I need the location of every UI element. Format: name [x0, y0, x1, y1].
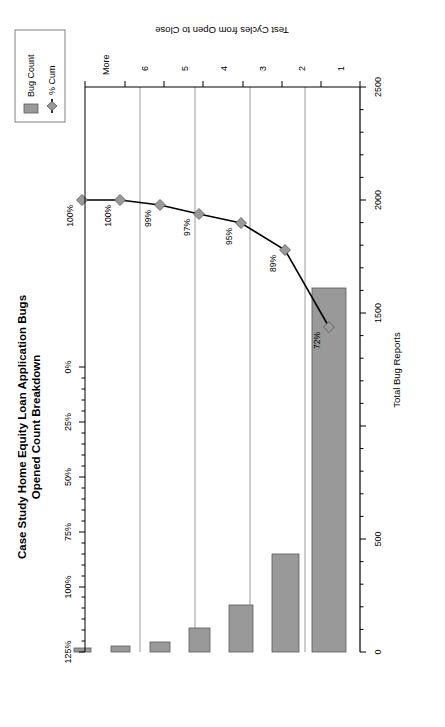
- bar-more: [74, 648, 91, 652]
- value-ticklabel-0: 0: [373, 649, 383, 654]
- legend-swatch-bug-count: [24, 104, 38, 113]
- category-label-more: More: [101, 54, 111, 75]
- value-axis-title: Total Bug Reports: [391, 332, 402, 408]
- chart-title-line1: Case Study Home Equity Loan Application …: [16, 295, 28, 559]
- pareto-chart: Case Study Home Equity Loan Application …: [0, 0, 445, 727]
- category-label-6: 6: [140, 66, 150, 71]
- category-label-2: 2: [297, 66, 307, 71]
- bar-3: [229, 605, 253, 652]
- rotated-chart-canvas: Case Study Home Equity Loan Application …: [0, 0, 445, 727]
- chart-legend: Bug Count % Cum: [15, 30, 65, 122]
- value-ticklabel-2500: 2500: [373, 77, 383, 97]
- chart-title-line2: Opened Count Breakdown: [30, 355, 42, 499]
- percent-ticklabel-0: 0%: [63, 360, 73, 373]
- data-label-4: 97%: [182, 219, 192, 236]
- value-ticklabel-1500: 1500: [373, 303, 383, 323]
- category-label-1: 1: [336, 66, 346, 71]
- legend-label-pct-cum: % Cum: [47, 65, 57, 95]
- category-label-5: 5: [180, 66, 190, 71]
- category-label-4: 4: [219, 66, 229, 71]
- data-label-more: 100%: [65, 205, 75, 227]
- legend-label-bug-count: Bug Count: [26, 54, 36, 97]
- value-ticklabel-500: 500: [373, 531, 383, 546]
- category-label-3: 3: [258, 66, 268, 71]
- data-label-1: 72%: [312, 332, 322, 349]
- bar-4: [189, 628, 210, 652]
- data-label-5: 99%: [143, 210, 153, 227]
- percent-ticklabel-75: 75%: [63, 523, 73, 541]
- bar-2: [272, 554, 299, 652]
- bar-5: [150, 642, 170, 652]
- percent-ticklabel-125: 125%: [63, 640, 73, 663]
- bar-6: [111, 646, 130, 652]
- category-axis-title: Test Cycles from Open to Close: [155, 25, 289, 36]
- percent-ticklabel-25: 25%: [63, 413, 73, 431]
- value-ticklabel-2000: 2000: [373, 190, 383, 210]
- data-label-2: 89%: [268, 255, 278, 272]
- plot-area: 72% 89% 95% 97% 99% 100% 100%: [65, 87, 360, 652]
- legend-box: [15, 30, 65, 122]
- percent-ticklabel-100: 100%: [63, 575, 73, 598]
- data-label-6: 100%: [103, 205, 113, 227]
- data-label-3: 95%: [224, 228, 234, 245]
- percent-ticklabel-50: 50%: [63, 468, 73, 486]
- chart-page: Case Study Home Equity Loan Application …: [0, 0, 445, 727]
